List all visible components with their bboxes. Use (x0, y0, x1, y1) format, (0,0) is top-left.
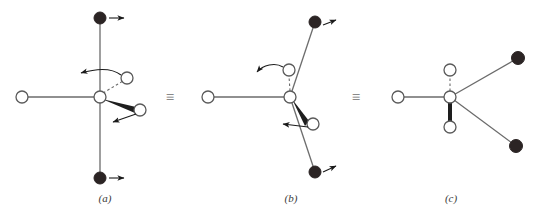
panel-b-lower-right-open-atom (307, 118, 319, 130)
panel-a-left-open-atom (16, 91, 28, 103)
panel-c-bond-to-lower-right-filled (450, 97, 516, 146)
panel-c-lower-right-filled-atom (510, 140, 523, 153)
panel-b-upper-rotation-arrow (257, 65, 283, 72)
panel-b-lower-right-motion-arrow (283, 124, 308, 127)
equivalence-symbol-a-b: ≡ (158, 89, 182, 106)
panel-b-stereocenter (284, 91, 296, 103)
panel-c-bond-to-upper-right-filled (450, 58, 518, 97)
panel-label-c: (c) (431, 192, 471, 204)
panel-c-lower-open-atom (444, 121, 456, 133)
panel-b-top-atom-motion-arrow (323, 20, 336, 25)
panel-a-bond-to-lower-right-open (102, 99, 136, 113)
panel-b-upper-open-atom (283, 64, 295, 76)
panel-b-bottom-filled-atom (309, 166, 321, 178)
panel-label-b: (b) (271, 192, 311, 204)
panel-a-bond-to-upper-right-open (103, 81, 123, 93)
panel-a (16, 12, 146, 184)
panel-c-stereocenter (444, 91, 456, 103)
panel-c-upper-right-filled-atom (512, 52, 525, 65)
panel-a-top-filled-atom (94, 12, 106, 24)
panel-c (392, 52, 525, 153)
panel-b-left-open-atom (202, 91, 214, 103)
panel-a-stereocenter (94, 91, 106, 103)
panel-c-upper-open-atom (444, 64, 456, 76)
panel-b-bond-to-upper-open (289, 76, 290, 91)
figure-canvas (0, 0, 540, 220)
panel-a-lower-right-motion-arrow (113, 114, 136, 122)
equivalence-symbol-b-c: ≡ (344, 89, 368, 106)
panel-b-top-filled-atom (309, 16, 321, 28)
panel-c-left-open-atom (392, 91, 404, 103)
panel-a-upper-right-rotation-arrow (81, 69, 121, 75)
panel-b (202, 16, 336, 178)
panel-label-a: (a) (85, 192, 125, 204)
panel-b-bond-to-top-filled (290, 22, 315, 97)
panel-b-bottom-atom-motion-arrow (323, 166, 336, 172)
panel-a-upper-right-open-atom (121, 72, 133, 84)
panel-b-bond-to-bottom-filled (290, 97, 315, 172)
stereochemistry-figure: ≡ ≡ (a) (b) (c) (0, 0, 540, 220)
panel-a-bottom-filled-atom (94, 172, 106, 184)
